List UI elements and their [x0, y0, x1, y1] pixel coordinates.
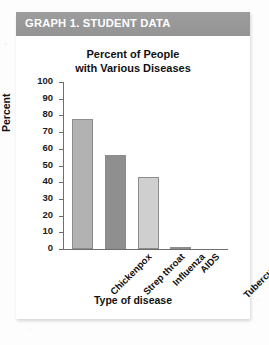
y-tick: 40 [59, 182, 63, 183]
y-tick-label: 40 [29, 175, 53, 186]
page-root: GRAPH 1. STUDENT DATA Percent of People … [0, 0, 269, 345]
card-banner: GRAPH 1. STUDENT DATA [16, 12, 250, 36]
y-tick-label: 80 [29, 108, 53, 119]
y-tick: 50 [59, 166, 63, 167]
bar-series [64, 82, 228, 249]
chart-title-line-2: with Various Diseases [16, 61, 250, 75]
bar [170, 247, 191, 249]
bar [72, 119, 93, 249]
y-tick-label: 70 [29, 125, 53, 136]
y-tick: 100 [59, 82, 63, 83]
plot-area: 1009080706050403020100 [63, 82, 228, 250]
bar-chart: Percent of People with Various Diseases … [16, 36, 250, 319]
graph-card: GRAPH 1. STUDENT DATA Percent of People … [16, 12, 250, 319]
bar [138, 177, 159, 249]
chart-title-line-1: Percent of People [87, 48, 180, 60]
chart-title: Percent of People with Various Diseases [16, 47, 250, 75]
y-tick-label: 30 [29, 192, 53, 203]
card-banner-title: GRAPH 1. STUDENT DATA [25, 17, 171, 29]
y-axis-label: Percent [0, 93, 12, 132]
y-tick: 20 [59, 216, 63, 217]
y-tick-label: 60 [29, 142, 53, 153]
y-tick-label: 50 [29, 159, 53, 170]
y-tick: 0 [59, 249, 63, 250]
y-tick-label: 0 [29, 242, 53, 253]
y-tick: 60 [59, 149, 63, 150]
y-tick-label: 100 [29, 75, 53, 86]
y-tick: 90 [59, 99, 63, 100]
x-axis-label: Type of disease [16, 294, 250, 306]
y-tick-label: 90 [29, 92, 53, 103]
bar [105, 155, 126, 249]
y-tick-label: 20 [29, 209, 53, 220]
y-tick: 80 [59, 115, 63, 116]
y-tick: 70 [59, 132, 63, 133]
y-tick: 30 [59, 199, 63, 200]
y-tick: 10 [59, 232, 63, 233]
y-tick-label: 10 [29, 225, 53, 236]
